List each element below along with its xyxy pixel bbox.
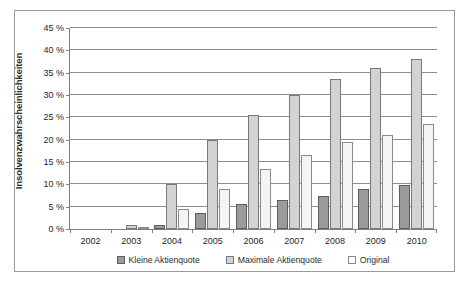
bar[interactable] [382,135,393,229]
y-axis-tick-label: 5 % [48,202,64,212]
x-axis-tick-mark [192,229,193,233]
legend-swatch-icon [348,256,356,264]
y-axis-tick-label: 25 % [43,112,64,122]
x-axis-tick-mark [274,229,275,233]
bar[interactable] [195,213,206,229]
bar[interactable] [399,185,410,229]
y-axis-tick-label: 40 % [43,45,64,55]
bar[interactable] [330,79,341,229]
bar-group: 2010 [396,28,437,229]
bar[interactable] [138,227,149,229]
bar[interactable] [154,225,165,229]
legend-item[interactable]: Original [348,255,390,265]
chart-legend: Kleine AktienquoteMaximale AktienquoteOr… [69,255,437,265]
bar[interactable] [301,155,312,229]
bar[interactable] [248,115,259,229]
x-axis-tick-mark [436,229,437,233]
bar[interactable] [178,209,189,229]
bar[interactable] [289,95,300,229]
bar-group: 2003 [111,28,152,229]
bar[interactable] [207,140,218,229]
bar-group: 2008 [315,28,356,229]
x-axis-tick-label: 2010 [396,236,437,246]
x-axis-tick-label: 2006 [233,236,274,246]
bar[interactable] [219,189,230,229]
bar[interactable] [277,200,288,229]
legend-item[interactable]: Kleine Aktienquote [117,255,200,265]
bar-group: 2007 [274,28,315,229]
legend-label: Kleine Aktienquote [129,255,200,265]
bar[interactable] [342,142,353,229]
bar[interactable] [236,204,247,229]
x-axis-tick-mark [233,229,234,233]
x-axis-tick-label: 2002 [70,236,111,246]
bar[interactable] [423,124,434,229]
y-axis-tick-label: 45 % [43,23,64,33]
y-axis-tick-label: 10 % [43,179,64,189]
x-axis-tick-mark [396,229,397,233]
x-axis-tick-mark [315,229,316,233]
bar[interactable] [318,196,329,229]
bar[interactable] [370,68,381,229]
bar[interactable] [166,184,177,229]
bar-group: 2005 [192,28,233,229]
bar[interactable] [126,225,137,229]
plot-area: 0 %5 %10 %15 %20 %25 %30 %35 %40 %45 % 2… [69,28,437,230]
x-axis-tick-mark [70,229,71,233]
y-axis-tick-label: 0 % [48,224,64,234]
bar-group: 2009 [355,28,396,229]
x-axis-tick-label: 2004 [152,236,193,246]
x-axis-tick-label: 2005 [192,236,233,246]
x-axis-tick-label: 2003 [111,236,152,246]
legend-item[interactable]: Maximale Aktienquote [226,255,322,265]
x-axis-tick-mark [355,229,356,233]
y-axis-tick-label: 35 % [43,68,64,78]
legend-label: Maximale Aktienquote [238,255,322,265]
x-axis-tick-mark [111,229,112,233]
bar[interactable] [358,189,369,229]
y-axis-tick-label: 15 % [43,157,64,167]
bar-group: 2004 [152,28,193,229]
bar[interactable] [411,59,422,229]
bar-group: 2006 [233,28,274,229]
y-axis-title: Insolvenzwahrscheinlichkeiten [13,11,27,231]
y-axis-tick-label: 30 % [43,90,64,100]
bar-group: 2002 [70,28,111,229]
chart-frame: Insolvenzwahrscheinlichkeiten 0 %5 %10 %… [14,10,455,272]
x-axis-tick-label: 2008 [315,236,356,246]
bar-chart: Insolvenzwahrscheinlichkeiten 0 %5 %10 %… [15,11,454,271]
x-axis-tick-label: 2007 [274,236,315,246]
x-axis-tick-mark [152,229,153,233]
x-axis-tick-label: 2009 [355,236,396,246]
legend-label: Original [360,255,390,265]
legend-swatch-icon [117,256,125,264]
bar[interactable] [260,169,271,229]
legend-swatch-icon [226,256,234,264]
y-axis-tick-label: 20 % [43,135,64,145]
bar-groups: 200220032004200520062007200820092010 [70,28,437,229]
